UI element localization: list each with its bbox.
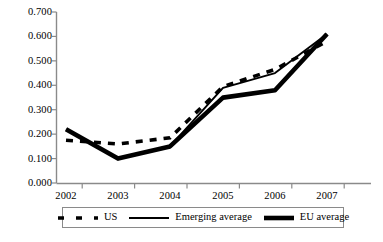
legend-item-eu-average: EU average [263, 208, 349, 227]
legend-swatch-solid-thin-icon [128, 212, 170, 224]
chart-page: 0.700 0.600 0.500 0.400 0.300 0.200 0.10… [0, 0, 383, 242]
x-tick-label: 2003 [95, 191, 141, 202]
chart-legend: US Emerging average EU average [62, 207, 344, 228]
x-tick-label: 2004 [147, 191, 193, 202]
legend-label-eu-average: EU average [300, 212, 349, 223]
legend-item-us: US [57, 208, 117, 227]
x-tick-label: 2002 [43, 191, 89, 202]
x-tick-label: 2005 [200, 191, 246, 202]
legend-swatch-dotted-icon [57, 212, 99, 224]
x-tick-label: 2007 [304, 191, 350, 202]
line-chart: 0.700 0.600 0.500 0.400 0.300 0.200 0.10… [0, 0, 383, 200]
legend-label-emerging-average: Emerging average [175, 212, 251, 223]
x-axis-labels: 2002 2003 2004 2005 2006 2007 [0, 0, 383, 200]
x-tick-label: 2006 [252, 191, 298, 202]
legend-item-emerging-average: Emerging average [128, 208, 251, 227]
legend-label-us: US [104, 212, 117, 223]
legend-swatch-solid-thick-icon [263, 212, 295, 224]
